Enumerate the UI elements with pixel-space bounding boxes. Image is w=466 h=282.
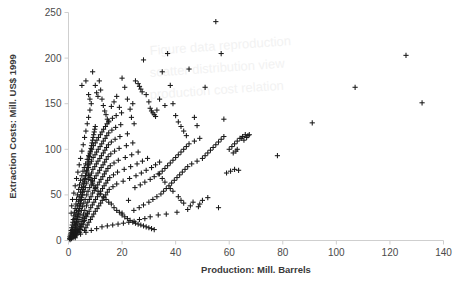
- watermark-line: production cost relation: [149, 78, 284, 102]
- data-point: [111, 172, 116, 177]
- x-tick-label: 0: [66, 247, 72, 258]
- data-point: [121, 179, 126, 184]
- data-point: [184, 133, 189, 138]
- data-point: [116, 158, 121, 163]
- y-tick-label: 150: [45, 98, 62, 109]
- data-point: [94, 226, 99, 231]
- data-point: [142, 180, 147, 185]
- data-point: [89, 101, 94, 106]
- data-point: [110, 184, 115, 189]
- data-point: [177, 172, 182, 177]
- data-point: [137, 205, 142, 210]
- data-point: [136, 149, 141, 154]
- data-point: [114, 181, 119, 186]
- data-point: [114, 113, 119, 118]
- x-axis-title: Production: Mill. Barrels: [201, 264, 311, 275]
- data-point: [118, 122, 123, 127]
- x-tick-label: 140: [435, 247, 452, 258]
- data-point: [310, 120, 315, 125]
- data-point: [69, 211, 74, 216]
- data-point: [140, 159, 145, 164]
- data-point: [176, 194, 181, 199]
- data-point: [216, 205, 221, 210]
- data-point: [185, 164, 190, 169]
- data-point: [165, 163, 170, 168]
- data-point: [144, 168, 149, 173]
- data-point: [109, 104, 114, 109]
- data-point: [125, 131, 130, 136]
- data-point: [144, 224, 149, 229]
- data-point: [83, 128, 88, 133]
- data-point: [111, 99, 116, 104]
- watermark-line: scatter distribution view: [149, 56, 285, 80]
- data-point: [176, 152, 181, 157]
- data-point: [87, 107, 92, 112]
- data-point: [173, 113, 178, 118]
- data-point: [109, 139, 114, 144]
- data-point: [154, 107, 159, 112]
- data-point: [174, 210, 179, 215]
- data-point: [236, 168, 241, 173]
- data-point: [229, 144, 234, 149]
- data-point: [186, 141, 191, 146]
- x-tick-label: 120: [382, 247, 399, 258]
- data-point: [213, 19, 218, 24]
- data-point: [122, 167, 127, 172]
- data-point: [181, 147, 186, 152]
- data-point: [148, 177, 153, 182]
- data-point: [158, 191, 163, 196]
- data-point: [111, 205, 116, 210]
- data-point: [150, 197, 155, 202]
- data-point: [203, 153, 208, 158]
- data-point: [160, 176, 165, 181]
- x-tick-label: 60: [224, 247, 236, 258]
- x-tick-label: 100: [328, 247, 345, 258]
- data-point: [108, 151, 113, 156]
- x-tick-label: 80: [277, 247, 289, 258]
- background-watermark: Figure data reproductionscatter distribu…: [149, 33, 291, 102]
- data-point: [157, 159, 162, 164]
- data-point: [79, 149, 84, 154]
- data-point: [190, 200, 195, 205]
- data-point: [133, 173, 138, 178]
- data-point: [73, 183, 78, 188]
- data-point: [119, 110, 124, 115]
- data-point: [197, 136, 202, 141]
- data-point: [174, 175, 179, 180]
- x-tick-label: 40: [170, 247, 182, 258]
- data-point: [137, 217, 142, 222]
- data-point: [232, 141, 237, 146]
- data-point: [128, 107, 133, 112]
- data-point: [82, 135, 87, 140]
- data-point: [205, 195, 210, 200]
- data-point: [77, 162, 82, 167]
- data-point: [93, 124, 98, 129]
- data-point: [235, 138, 240, 143]
- data-point: [117, 105, 122, 110]
- data-point: [99, 224, 104, 229]
- data-point: [126, 198, 131, 203]
- data-point: [86, 92, 91, 97]
- data-point: [170, 101, 175, 106]
- data-point: [129, 115, 134, 120]
- data-point: [173, 155, 178, 160]
- data-point: [216, 139, 221, 144]
- data-point: [181, 201, 186, 206]
- data-point: [133, 78, 138, 83]
- data-point: [152, 227, 157, 232]
- data-point: [128, 164, 133, 169]
- data-point: [110, 116, 115, 121]
- data-point: [184, 144, 189, 149]
- data-point: [90, 69, 95, 74]
- data-point: [144, 92, 149, 97]
- data-point: [141, 223, 146, 228]
- data-point: [85, 121, 90, 126]
- data-point: [83, 176, 88, 181]
- data-point: [113, 137, 118, 142]
- data-point: [91, 132, 96, 137]
- data-point: [92, 127, 97, 132]
- data-point: [79, 83, 84, 88]
- data-point: [213, 142, 218, 147]
- data-point: [138, 222, 143, 227]
- data-point: [188, 203, 193, 208]
